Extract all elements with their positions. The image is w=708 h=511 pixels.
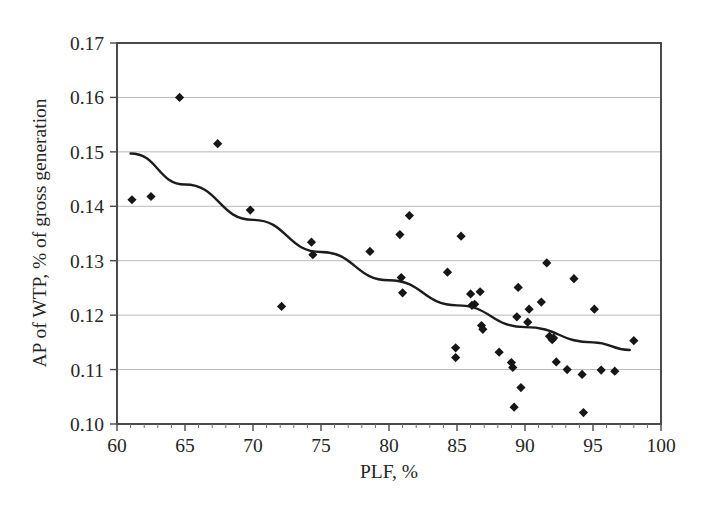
y-tick-label: 0.13: [70, 251, 104, 272]
x-tick-label: 95: [583, 435, 603, 456]
x-tick-label: 90: [515, 435, 535, 456]
y-tick-label: 0.10: [70, 414, 104, 435]
x-tick-label: 60: [107, 435, 127, 456]
x-tick-label: 75: [311, 435, 331, 456]
y-tick-label: 0.11: [71, 360, 104, 381]
x-axis-tick-labels: 6065707580859095100: [107, 435, 675, 456]
y-tick-label: 0.15: [70, 142, 104, 163]
y-tick-label: 0.17: [70, 33, 104, 54]
x-tick-label: 85: [447, 435, 467, 456]
x-tick-label: 100: [646, 435, 675, 456]
x-tick-label: 65: [175, 435, 195, 456]
chart-figure: 6065707580859095100 0.100.110.120.130.14…: [0, 0, 708, 511]
scatter-plot: 6065707580859095100 0.100.110.120.130.14…: [0, 0, 708, 511]
y-tick-label: 0.16: [70, 87, 104, 108]
y-tick-label: 0.12: [70, 305, 104, 326]
y-axis-title: AP of WTP, % of gross generation: [29, 98, 50, 367]
x-tick-label: 80: [379, 435, 399, 456]
x-tick-label: 70: [243, 435, 263, 456]
y-tick-label: 0.14: [70, 196, 104, 217]
x-axis-title: PLF, %: [360, 461, 418, 482]
